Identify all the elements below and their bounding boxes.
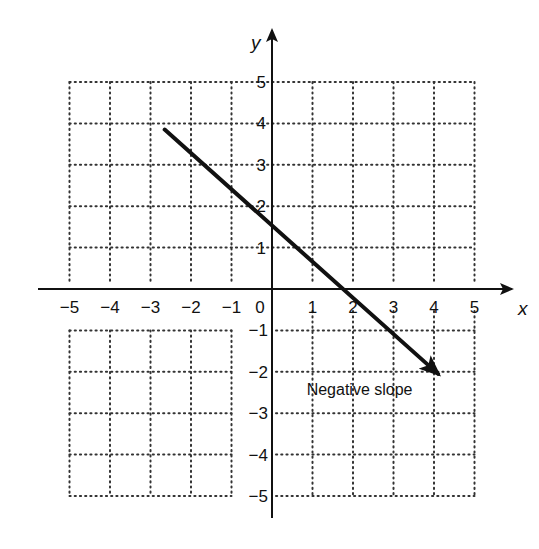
y-tick-label: 5 xyxy=(257,73,266,92)
y-tick-label: −4 xyxy=(249,446,268,465)
x-tick-label: 3 xyxy=(389,298,398,317)
y-tick-label: 3 xyxy=(257,156,266,175)
negative-slope-line xyxy=(165,130,438,374)
x-tick-label: 4 xyxy=(429,298,438,317)
x-axis-label: x xyxy=(517,298,529,319)
y-axis-label: y xyxy=(249,32,262,53)
y-tick-label: −5 xyxy=(249,487,268,506)
x-tick-label: 5 xyxy=(470,298,479,317)
grid-lower-right-quadrant xyxy=(276,311,475,496)
x-tick-label: −3 xyxy=(141,298,160,317)
y-tick-label: 1 xyxy=(257,239,266,258)
y-tick-label: −3 xyxy=(249,404,268,423)
negative-slope-annotation: Negative slope xyxy=(307,381,413,398)
x-tick-label: −4 xyxy=(100,298,119,317)
x-tick-label: −2 xyxy=(181,298,200,317)
x-tick-label: 1 xyxy=(308,298,317,317)
grid-lower-left-quadrant xyxy=(70,330,232,496)
y-tick-label: −1 xyxy=(249,321,268,340)
x-tick-label: 0 xyxy=(255,298,264,317)
x-tick-labels: −5−4−3−2−1012345 xyxy=(60,298,479,317)
coordinate-plane-chart: x y −5−4−3−2−1012345 12345−1−2−3−4−5 Neg… xyxy=(0,0,539,549)
y-tick-label: −2 xyxy=(249,363,268,382)
y-tick-label: 4 xyxy=(257,114,266,133)
x-tick-label: −1 xyxy=(222,298,241,317)
x-tick-label: −5 xyxy=(60,298,79,317)
